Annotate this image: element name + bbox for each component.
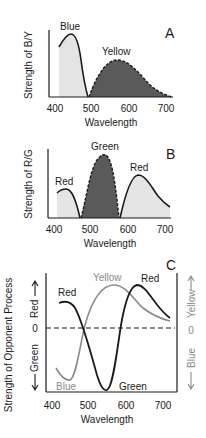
panel-b: Red Green Red B 400 500 600 700 Waveleng… <box>23 141 175 249</box>
tick-400-b: 400 <box>46 224 63 235</box>
y-axis-label-c: Strength of Opponent Process <box>3 278 14 413</box>
left-top-label: Red <box>29 300 40 318</box>
red2-area <box>120 175 170 218</box>
tick-500: 500 <box>83 103 100 114</box>
red-right-label: Red <box>141 273 159 284</box>
left-zero-label: 0 <box>32 323 38 334</box>
panel-b-label: B <box>166 146 175 162</box>
panel-c-label: C <box>166 257 176 273</box>
green-label-c: Green <box>119 381 147 392</box>
up-arrow-right-icon <box>188 276 194 291</box>
yellow-label: Yellow <box>102 46 131 57</box>
tick-400: 400 <box>47 103 64 114</box>
tick-600-b: 600 <box>120 224 137 235</box>
y-axis-label-a: Strength of B/Y <box>23 31 34 99</box>
x-axis-label-b: Wavelength <box>84 238 136 249</box>
tick-600: 600 <box>121 103 138 114</box>
blue-label: Blue <box>60 21 80 32</box>
x-axis-label-c: Wavelength <box>81 414 133 425</box>
red1-label: Red <box>55 176 73 187</box>
tick-500-c: 500 <box>80 400 97 411</box>
green-label: Green <box>91 141 119 152</box>
tick-700: 700 <box>158 103 175 114</box>
x-axis-label-a: Wavelength <box>85 117 137 128</box>
up-arrow-left-icon <box>32 281 38 296</box>
red-green-curve <box>59 285 170 390</box>
right-top-label: Yellow <box>186 289 197 318</box>
right-bottom-label: Blue <box>186 348 197 368</box>
red-left-label: Red <box>58 287 76 298</box>
panel-c: Red Yellow Red Blue Green C Red 0 Green … <box>3 257 197 425</box>
tick-600-c: 600 <box>118 400 135 411</box>
blue-label-c: Blue <box>56 381 76 392</box>
tick-700-c: 700 <box>155 400 172 411</box>
down-arrow-right-icon <box>188 372 194 389</box>
red2-label: Red <box>130 162 148 173</box>
tick-400-c: 400 <box>44 400 61 411</box>
panel-a-label: A <box>165 25 175 41</box>
tick-500-b: 500 <box>82 224 99 235</box>
green-area <box>81 155 119 218</box>
y-axis-label-b: Strength of R/G <box>23 149 34 219</box>
blue-area <box>59 34 88 97</box>
left-bottom-label: Green <box>29 344 40 372</box>
opponent-process-figure: Blue Yellow A 400 500 600 700 Wavelength… <box>0 0 206 438</box>
right-zero-label: 0 <box>188 325 194 336</box>
down-arrow-left-icon <box>32 374 38 390</box>
panel-a: Blue Yellow A 400 500 600 700 Wavelength… <box>23 21 175 128</box>
yellow-label-c: Yellow <box>93 272 122 283</box>
tick-700-b: 700 <box>157 224 174 235</box>
